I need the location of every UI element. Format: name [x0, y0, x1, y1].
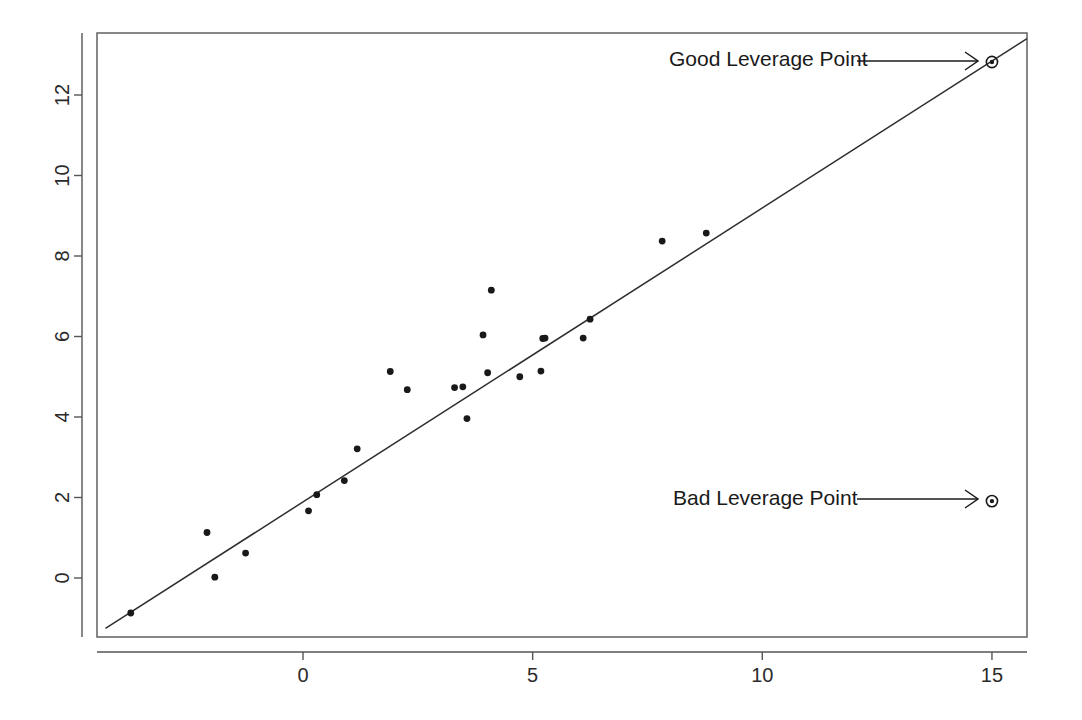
- y-tick-label: 0: [51, 572, 73, 583]
- data-point: [659, 238, 666, 245]
- data-point: [538, 368, 545, 375]
- scatter-plot-figure: 051015 024681012 Good Leverage PointBad …: [0, 0, 1082, 720]
- data-point: [204, 529, 211, 536]
- fit-line-group: [106, 39, 1027, 629]
- data-point: [484, 369, 491, 376]
- y-tick-label: 12: [51, 84, 73, 106]
- leverage-point-core-bad: [990, 499, 994, 503]
- data-point: [459, 383, 466, 390]
- x-tick-label: 10: [751, 664, 773, 686]
- data-point: [313, 491, 320, 498]
- data-point: [488, 287, 495, 294]
- x-axis-group: 051015: [97, 652, 1027, 686]
- annotation-label-good: Good Leverage Point: [669, 47, 868, 70]
- y-tick-label: 6: [51, 331, 73, 342]
- x-tick-label: 15: [981, 664, 1003, 686]
- y-tick-label: 4: [51, 411, 73, 422]
- regression-line: [106, 39, 1027, 629]
- data-point: [542, 335, 549, 342]
- data-point: [587, 316, 594, 323]
- data-point: [341, 477, 348, 484]
- data-point: [580, 335, 587, 342]
- data-point: [305, 507, 312, 514]
- y-tick-label: 2: [51, 492, 73, 503]
- y-tick-label: 10: [51, 164, 73, 186]
- data-point: [516, 373, 523, 380]
- data-point: [211, 574, 218, 581]
- annotations-group: Good Leverage PointBad Leverage Point: [669, 47, 978, 509]
- data-point: [387, 368, 394, 375]
- y-tick-label: 8: [51, 250, 73, 261]
- x-tick-label: 5: [527, 664, 538, 686]
- plot-frame: [97, 33, 1027, 637]
- leverage-points-group: [986, 56, 997, 506]
- data-point: [480, 331, 487, 338]
- data-point: [703, 230, 710, 237]
- plot-border: [97, 33, 1027, 637]
- y-axis-group: 024681012: [51, 33, 82, 637]
- data-point: [354, 445, 361, 452]
- data-point: [404, 386, 411, 393]
- annotation-label-bad: Bad Leverage Point: [673, 486, 858, 509]
- x-tick-label: 0: [297, 664, 308, 686]
- data-point: [127, 610, 134, 617]
- plot-canvas: 051015 024681012 Good Leverage PointBad …: [0, 0, 1082, 720]
- data-point: [451, 384, 458, 391]
- data-point: [242, 550, 249, 557]
- data-point: [464, 415, 471, 422]
- leverage-point-core-good: [990, 60, 994, 64]
